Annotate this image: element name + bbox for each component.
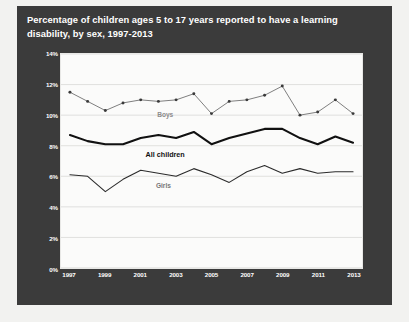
data-point bbox=[281, 85, 284, 88]
x-axis-tick-label: 2011 bbox=[312, 271, 325, 278]
x-axis-tick-label: 1997 bbox=[62, 271, 75, 278]
y-axis: 0%2%4%6%8%10%12%14% bbox=[17, 53, 58, 269]
gridlines bbox=[61, 54, 362, 268]
data-point bbox=[122, 101, 125, 104]
y-axis-tick-label: 6% bbox=[20, 173, 58, 180]
y-axis-tick-label: 0% bbox=[20, 266, 58, 273]
data-point bbox=[192, 92, 195, 95]
chart-plot-svg bbox=[61, 54, 362, 268]
data-point bbox=[263, 94, 266, 97]
y-axis-tick-label: 14% bbox=[20, 50, 58, 57]
x-axis: 199719992001200320052007200920112013 bbox=[60, 271, 363, 285]
data-point bbox=[104, 109, 107, 112]
data-point bbox=[68, 91, 71, 94]
data-point bbox=[316, 111, 319, 114]
data-point bbox=[298, 114, 301, 117]
data-point bbox=[175, 98, 178, 101]
series-line-boys bbox=[70, 86, 353, 115]
x-axis-tick-label: 2003 bbox=[169, 271, 182, 278]
data-point bbox=[245, 98, 248, 101]
x-axis-tick-label: 1999 bbox=[98, 271, 111, 278]
data-point bbox=[86, 100, 89, 103]
plot-area bbox=[60, 53, 363, 269]
series-label-boys: Boys bbox=[157, 110, 173, 117]
y-axis-tick-label: 2% bbox=[20, 235, 58, 242]
chart-title: Percentage of children ages 5 to 17 year… bbox=[27, 13, 379, 40]
x-axis-tick-label: 2001 bbox=[134, 271, 147, 278]
series-line-girls bbox=[70, 166, 353, 192]
series-lines bbox=[68, 85, 354, 192]
x-axis-tick-label: 2005 bbox=[205, 271, 218, 278]
data-point bbox=[352, 112, 355, 115]
data-point bbox=[157, 100, 160, 103]
screenshot-root: Percentage of children ages 5 to 17 year… bbox=[0, 0, 409, 322]
chart-panel: Percentage of children ages 5 to 17 year… bbox=[17, 6, 392, 305]
data-point bbox=[210, 112, 213, 115]
y-axis-tick-label: 4% bbox=[20, 204, 58, 211]
series-line-all-children bbox=[70, 129, 353, 144]
x-axis-tick-label: 2013 bbox=[347, 271, 360, 278]
x-axis-tick-label: 2009 bbox=[276, 271, 289, 278]
y-axis-tick-label: 8% bbox=[20, 142, 58, 149]
series-label-all-children: All children bbox=[146, 150, 185, 159]
data-point bbox=[139, 98, 142, 101]
x-axis-tick-label: 2007 bbox=[240, 271, 253, 278]
series-label-girls: Girls bbox=[156, 181, 171, 188]
data-point bbox=[334, 98, 337, 101]
data-point bbox=[228, 100, 231, 103]
y-axis-tick-label: 10% bbox=[20, 111, 58, 118]
y-axis-tick-label: 12% bbox=[20, 80, 58, 87]
